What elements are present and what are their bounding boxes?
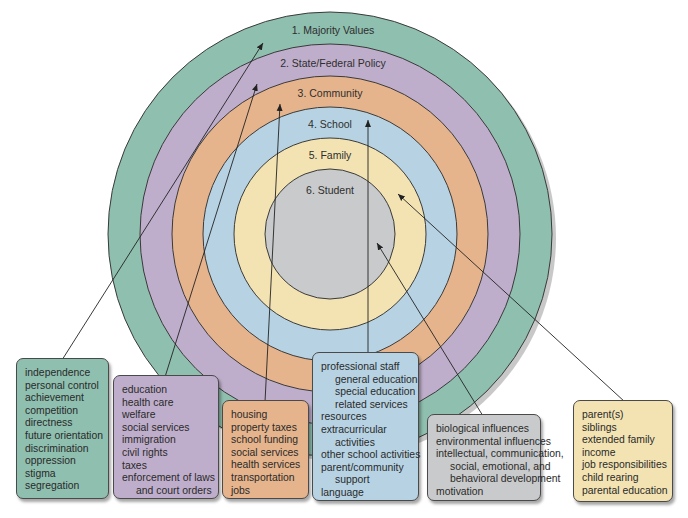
box-item: extracurricular	[321, 424, 412, 437]
box-item: support	[321, 474, 412, 487]
box-family: parent(s) siblings extended family incom…	[573, 400, 673, 502]
ring-label-policy: 2. State/Federal Policy	[280, 57, 386, 69]
box-item: motivation	[436, 486, 534, 499]
box-item: related services	[321, 399, 412, 412]
box-item: education	[122, 384, 212, 397]
box-item: civil rights	[122, 447, 212, 460]
box-item: parent/community	[321, 462, 412, 475]
box-community: housing property taxes school funding so…	[222, 400, 309, 499]
box-item: discrimination	[25, 443, 102, 456]
box-item: social, emotional, and	[436, 461, 534, 474]
box-item: property taxes	[231, 422, 302, 435]
box-item: parental education	[582, 485, 666, 498]
box-item: health services	[231, 459, 302, 472]
box-item: environmental influences	[436, 436, 534, 449]
box-item: taxes	[122, 460, 212, 473]
box-item: immigration	[122, 434, 212, 447]
box-school: professional staff general education spe…	[312, 352, 419, 501]
box-item: language	[321, 487, 412, 500]
box-item: directness	[25, 417, 102, 430]
box-item: siblings	[582, 422, 666, 435]
box-item: income	[582, 447, 666, 460]
box-item: competition	[25, 405, 102, 418]
box-item: stigma	[25, 468, 102, 481]
box-item: activities	[321, 437, 412, 450]
box-item: school funding	[231, 434, 302, 447]
box-item: social services	[122, 422, 212, 435]
ring-label-family: 5. Family	[309, 149, 352, 161]
box-item: job responsibilities	[582, 459, 666, 472]
box-item: child rearing	[582, 472, 666, 485]
box-item: and court orders	[122, 485, 212, 498]
ring-label-student: 6. Student	[306, 184, 354, 196]
box-item: health care	[122, 397, 212, 410]
box-item: biological influences	[436, 423, 534, 436]
box-item: oppression	[25, 455, 102, 468]
box-item: professional staff	[321, 361, 412, 374]
box-item: jobs	[231, 485, 302, 498]
box-majority-values: independence personal control achievemen…	[16, 358, 109, 499]
box-item: enforcement of laws	[122, 472, 212, 485]
box-item: welfare	[122, 409, 212, 422]
box-item: extended family	[582, 434, 666, 447]
box-item: transportation	[231, 472, 302, 485]
ring-label-school: 4. School	[308, 118, 352, 130]
box-item: social services	[231, 447, 302, 460]
box-item: future orientation	[25, 430, 102, 443]
box-item: other school activities	[321, 449, 412, 462]
box-state-federal-policy: education health care welfare social ser…	[113, 375, 219, 499]
box-item: personal control	[25, 380, 102, 393]
box-item: behavioral development	[436, 473, 534, 486]
box-item: independence	[25, 367, 102, 380]
box-item: resources	[321, 411, 412, 424]
ring-label-majority: 1. Majority Values	[292, 24, 375, 36]
box-item: parent(s)	[582, 409, 666, 422]
box-item: special education	[321, 386, 412, 399]
box-item: segregation	[25, 480, 102, 493]
box-item: general education	[321, 374, 412, 387]
ring-label-community: 3. Community	[298, 87, 364, 99]
box-item: housing	[231, 409, 302, 422]
box-item: intellectual, communication,	[436, 448, 534, 461]
box-item: achievement	[25, 392, 102, 405]
box-student: biological influences environmental infl…	[427, 414, 541, 501]
